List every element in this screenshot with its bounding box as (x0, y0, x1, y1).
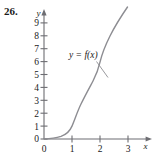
x-tick-label-3: 3 (126, 144, 131, 154)
y-tick-label-6: 6 (34, 57, 39, 67)
x-axis-label: x (143, 141, 148, 151)
x-tick-label-group: 0 1 2 3 (42, 144, 131, 154)
y-tick-label-7: 7 (34, 44, 39, 54)
function-curve (44, 7, 128, 139)
x-tick-label-2: 2 (98, 144, 103, 154)
y-axis-arrow-icon (41, 9, 46, 15)
y-tick-label-5: 5 (34, 70, 39, 80)
y-tick-label-3: 3 (34, 96, 39, 106)
figure-container: 26. 0 1 2 3 4 5 6 7 (0, 0, 154, 155)
y-tick-label-1: 1 (34, 122, 39, 132)
x-tick-label-1: 1 (70, 144, 75, 154)
x-tick-label-0: 0 (42, 144, 47, 154)
y-tick-label-9: 9 (34, 18, 39, 28)
curve-label: y = f(x) (68, 50, 98, 61)
y-tick-label-group: 0 1 2 3 4 5 6 7 8 9 (34, 18, 39, 144)
y-tick-label-8: 8 (34, 31, 39, 41)
y-tick-label-2: 2 (34, 109, 39, 119)
graph-plot: 0 1 2 3 4 5 6 7 8 9 0 1 2 3 y x (0, 0, 154, 155)
y-axis-label: y (36, 8, 41, 18)
y-tick-label-0: 0 (34, 134, 39, 144)
y-tick-label-4: 4 (34, 83, 39, 93)
